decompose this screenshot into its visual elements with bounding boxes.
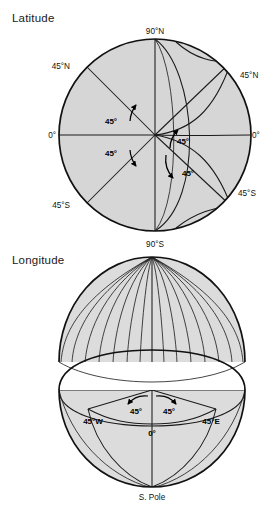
label-45w: 45°W	[83, 417, 103, 426]
label-45s-left: 45°S	[52, 201, 70, 210]
longitude-upper-dome	[59, 257, 245, 382]
angle-label-upper-left: 45°	[105, 117, 117, 126]
label-0-left: 0°	[48, 131, 56, 140]
longitude-lower-hemisphere: 45° 45° 45°W 45°E 0° S. Pole	[59, 350, 245, 502]
label-45n-left: 45°N	[52, 62, 70, 71]
label-0-right: 0°	[252, 131, 260, 140]
angle-label-west: 45°	[130, 407, 142, 416]
figure-root: Latitude Longitude	[0, 0, 273, 515]
label-prime-meridian: 0°	[148, 429, 156, 438]
label-45n-right: 45°N	[240, 71, 258, 80]
angle-label-lower-right: 45°	[182, 169, 194, 178]
label-s-pole: S. Pole	[139, 493, 166, 502]
angle-label-lower-left: 45°	[105, 149, 117, 158]
label-90n: 90°N	[146, 27, 164, 36]
latitude-globe: 90°N 90°S 45°N 45°N 0° 0° 45°S 45°S 45° …	[48, 27, 260, 249]
label-45s-right: 45°S	[238, 189, 256, 198]
angle-label-upper-right: 45°	[177, 137, 189, 146]
label-45e: 45°E	[202, 417, 220, 426]
diagram-canvas: 90°N 90°S 45°N 45°N 0° 0° 45°S 45°S 45° …	[0, 0, 273, 515]
label-90s: 90°S	[146, 240, 164, 249]
angle-label-east: 45°	[163, 407, 175, 416]
dome-base-ellipse	[59, 362, 245, 382]
